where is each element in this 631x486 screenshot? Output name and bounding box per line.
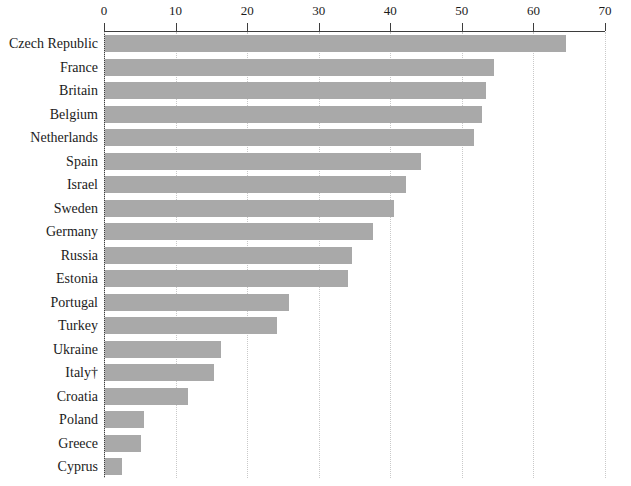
bar (105, 341, 221, 358)
x-tick-mark-40 (390, 23, 391, 31)
bar (105, 82, 486, 99)
bar-row: Turkey (0, 314, 631, 338)
x-tick-mark-0 (104, 23, 105, 31)
bar (105, 364, 214, 381)
bar-row: Estonia (0, 267, 631, 291)
x-tick-label-20: 20 (241, 4, 254, 18)
category-label: Greece (0, 432, 98, 456)
category-label: France (0, 56, 98, 80)
bar (105, 153, 421, 170)
bar (105, 270, 348, 287)
bar (105, 176, 406, 193)
category-label: Croatia (0, 385, 98, 409)
bar-row: Italy† (0, 361, 631, 385)
bar-row: Israel (0, 173, 631, 197)
bar-row: Britain (0, 79, 631, 103)
category-label: Poland (0, 408, 98, 432)
category-label: Netherlands (0, 126, 98, 150)
x-tick-mark-60 (533, 23, 534, 31)
x-tick-label-40: 40 (384, 4, 397, 18)
bar-row: Czech Republic (0, 32, 631, 56)
x-tick-mark-10 (176, 23, 177, 31)
bar-row: Germany (0, 220, 631, 244)
bar-row: Belgium (0, 103, 631, 127)
bar (105, 59, 494, 76)
category-label: Turkey (0, 314, 98, 338)
category-label: Czech Republic (0, 32, 98, 56)
bar (105, 106, 482, 123)
bar (105, 435, 141, 452)
bar-row: France (0, 56, 631, 80)
category-label: Belgium (0, 103, 98, 127)
bar (105, 388, 188, 405)
category-label: Portugal (0, 291, 98, 315)
category-label: Israel (0, 173, 98, 197)
x-tick-label-30: 30 (312, 4, 325, 18)
x-tick-label-70: 70 (599, 4, 612, 18)
category-label: Spain (0, 150, 98, 174)
category-label: Russia (0, 244, 98, 268)
x-tick-mark-30 (319, 23, 320, 31)
bar-chart: 010203040506070 Czech RepublicFranceBrit… (0, 0, 631, 486)
x-tick-label-10: 10 (169, 4, 182, 18)
bar-row: Russia (0, 244, 631, 268)
bar (105, 35, 566, 52)
x-tick-mark-20 (247, 23, 248, 31)
category-label: Germany (0, 220, 98, 244)
x-tick-label-50: 50 (455, 4, 468, 18)
x-tick-mark-70 (605, 23, 606, 31)
bar (105, 247, 352, 264)
bar-row: Greece (0, 432, 631, 456)
bar-row: Cyprus (0, 455, 631, 479)
x-tick-label-0: 0 (101, 4, 108, 18)
bar (105, 223, 373, 240)
bar (105, 294, 289, 311)
bar-row: Spain (0, 150, 631, 174)
category-label: Estonia (0, 267, 98, 291)
bar-row: Poland (0, 408, 631, 432)
bar (105, 458, 122, 475)
bar (105, 411, 144, 428)
bar (105, 317, 277, 334)
bar-row: Ukraine (0, 338, 631, 362)
bar-row: Sweden (0, 197, 631, 221)
category-label: Britain (0, 79, 98, 103)
bar (105, 129, 474, 146)
category-label: Italy† (0, 361, 98, 385)
bar-row: Netherlands (0, 126, 631, 150)
x-tick-label-60: 60 (527, 4, 540, 18)
category-label: Sweden (0, 197, 98, 221)
category-label: Cyprus (0, 455, 98, 479)
bar-row: Croatia (0, 385, 631, 409)
x-tick-mark-50 (462, 23, 463, 31)
category-label: Ukraine (0, 338, 98, 362)
bar-row: Portugal (0, 291, 631, 315)
bar (105, 200, 394, 217)
